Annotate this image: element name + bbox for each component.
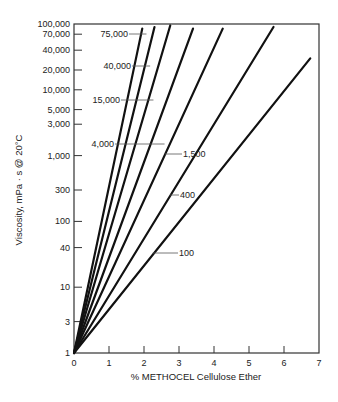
line-label: 400 — [180, 190, 195, 200]
x-tick-label: 5 — [246, 358, 251, 368]
series-line — [74, 25, 170, 353]
y-tick-label: 1 — [65, 348, 70, 358]
series-line — [74, 29, 223, 353]
y-tick-label: 300 — [55, 185, 70, 195]
x-tick-label: 2 — [141, 358, 146, 368]
y-axis-ticks: 100,00070,00040,00020,00010,0005,0003,00… — [37, 19, 82, 358]
viscosity-chart: 100,00070,00040,00020,00010,0005,0003,00… — [0, 0, 338, 402]
x-axis-label: % METHOCEL Cellulose Ether — [131, 371, 262, 382]
y-tick-label: 70,000 — [42, 29, 70, 39]
x-tick-label: 4 — [211, 358, 216, 368]
y-tick-label: 3,000 — [47, 119, 70, 129]
series-line — [74, 29, 142, 353]
line-label: 40,000 — [103, 61, 131, 71]
y-tick-label: 100 — [55, 216, 70, 226]
x-tick-label: 7 — [316, 358, 321, 368]
y-tick-label: 40 — [60, 243, 70, 253]
line-label: 15,000 — [92, 95, 120, 105]
line-labels: 75,00040,00015,0004,0001,500400100 — [91, 29, 205, 258]
plot-border — [74, 24, 319, 353]
y-tick-label: 100,000 — [37, 19, 70, 29]
x-tick-label: 6 — [281, 358, 286, 368]
y-tick-label: 10 — [60, 282, 70, 292]
line-label: 100 — [179, 248, 194, 258]
series-line — [74, 29, 193, 353]
x-tick-label: 3 — [176, 358, 181, 368]
line-label: 4,000 — [91, 139, 114, 149]
x-axis-ticks: 01234567 — [71, 346, 321, 368]
y-tick-label: 20,000 — [42, 65, 70, 75]
y-tick-label: 10,000 — [42, 85, 70, 95]
series-line — [74, 27, 274, 353]
line-label: 75,000 — [100, 29, 128, 39]
plot-frame — [74, 24, 319, 353]
y-axis-label: Viscosity, mPa · s @ 20°C — [13, 134, 24, 245]
y-tick-label: 1,000 — [47, 151, 70, 161]
x-tick-label: 0 — [71, 358, 76, 368]
y-tick-label: 40,000 — [42, 45, 70, 55]
y-tick-label: 3 — [65, 317, 70, 327]
line-label: 1,500 — [183, 149, 206, 159]
x-tick-label: 1 — [106, 358, 111, 368]
y-tick-label: 5,000 — [47, 105, 70, 115]
